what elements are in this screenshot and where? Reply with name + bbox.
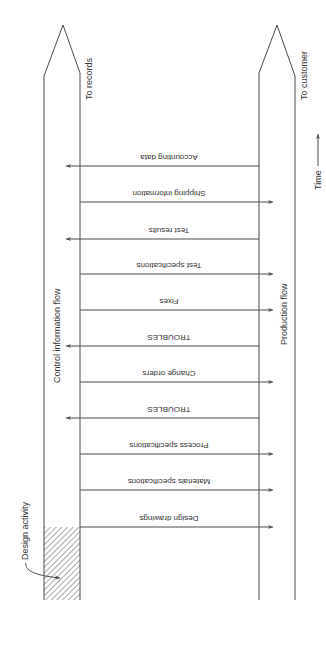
flow-label-process-specifications: Process specifications xyxy=(129,441,208,450)
flow-label-change-orders: Change orders xyxy=(143,369,196,378)
flow-arrows xyxy=(66,166,273,527)
control-column-arrow xyxy=(44,25,80,600)
flow-label-fixes: Fixes xyxy=(159,297,178,306)
design-activity-hatch xyxy=(44,527,80,600)
flow-label-troubles-2: TROUBLES xyxy=(147,405,190,414)
flow-label-accounting-data: Accounting data xyxy=(140,153,198,162)
control-information-flow-label: Control information flow xyxy=(52,288,62,383)
flow-label-test-specifications: Test specifications xyxy=(137,261,202,270)
design-activity-label: Design activity xyxy=(20,501,30,560)
flow-diagram: To records To customer Control informati… xyxy=(0,0,326,658)
flow-label-shipping-information: Shipping information xyxy=(133,189,206,198)
to-customer-label: To customer xyxy=(299,51,309,100)
control-column xyxy=(44,25,80,600)
production-flow-label: Production flow xyxy=(279,283,289,345)
flow-label-test-results: Test results xyxy=(149,226,189,235)
flow-labels: Accounting data Shipping information Tes… xyxy=(128,153,211,523)
production-column-arrow xyxy=(259,25,295,600)
to-records-label: To records xyxy=(84,57,94,100)
flow-label-materials-specifications: Materials specifications xyxy=(128,477,211,486)
flow-label-troubles-1: TROUBLES xyxy=(147,333,190,342)
production-column xyxy=(259,25,295,600)
flow-label-design-drawings: Design drawings xyxy=(139,514,198,523)
time-label: Time xyxy=(313,170,323,190)
